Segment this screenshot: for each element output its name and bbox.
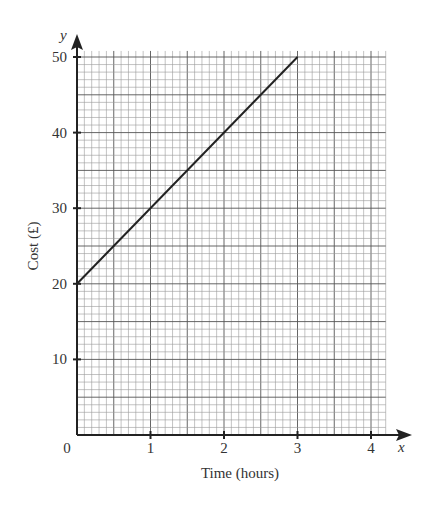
x-axis-title: Time (hours) [201,465,279,482]
y-tick-label: 40 [52,125,67,141]
x-axis-variable: x [397,439,405,455]
y-axis-title: Cost (£) [25,222,42,271]
x-tick-label: 1 [147,440,155,456]
grid [77,51,386,435]
y-tick-label: 30 [52,200,67,216]
cost-time-chart: Time (hours) Cost (£) x y 0 123410203040… [0,0,428,509]
origin-label: 0 [63,440,71,456]
y-tick-label: 20 [52,276,67,292]
y-axis-variable: y [58,27,67,43]
x-tick-label: 2 [220,440,228,456]
x-tick-label: 4 [367,440,375,456]
y-tick-label: 50 [52,49,67,65]
x-tick-label: 3 [294,440,302,456]
y-tick-label: 10 [52,351,67,367]
